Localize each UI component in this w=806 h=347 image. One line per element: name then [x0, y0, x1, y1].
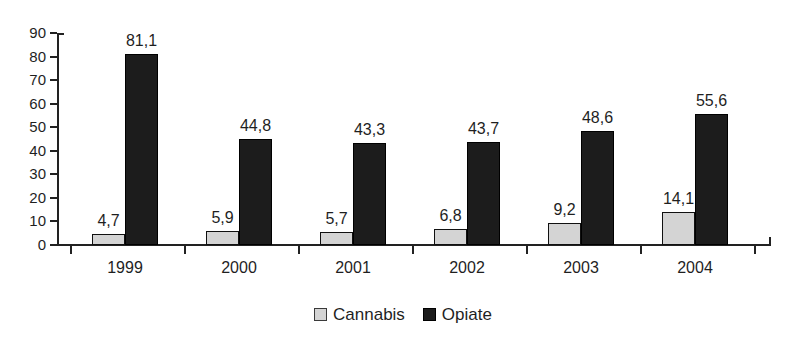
bar-cannabis-1999[interactable] [92, 234, 125, 245]
x-axis-tick [754, 246, 756, 254]
y-axis-tick-label: 80 [2, 49, 46, 64]
bar-value-label-opiate-2002: 43,7 [453, 121, 514, 137]
bar-value-label-cannabis-2000: 5,9 [192, 210, 253, 226]
y-axis-tick-label: 20 [2, 190, 46, 205]
bar-opiate-2004[interactable] [695, 114, 728, 245]
bar-value-label-cannabis-1999: 4,7 [78, 213, 139, 229]
bar-opiate-2002[interactable] [467, 142, 500, 245]
legend-item-cannabis[interactable]: Cannabis [314, 306, 405, 323]
y-axis-tick [50, 150, 57, 152]
plot-area [57, 33, 773, 245]
y-axis-tick-label: 90 [2, 25, 46, 40]
bar-cannabis-2003[interactable] [548, 223, 581, 245]
x-axis-tick [184, 246, 186, 254]
bar-opiate-2000[interactable] [239, 139, 272, 245]
bar-value-label-cannabis-2003: 9,2 [534, 202, 595, 218]
x-axis-label-2004: 2004 [655, 259, 735, 277]
bar-chart: 9080706050403020100 19992000200120022003… [0, 0, 806, 347]
bar-cannabis-2000[interactable] [206, 231, 239, 245]
y-axis-tick-label: 70 [2, 72, 46, 87]
bar-value-label-opiate-2000: 44,8 [225, 118, 286, 134]
x-axis-tick [70, 246, 72, 254]
opiate-swatch-icon [423, 308, 436, 321]
cannabis-swatch-icon [314, 308, 327, 321]
bar-value-label-cannabis-2002: 6,8 [420, 208, 481, 224]
legend-item-opiate[interactable]: Opiate [423, 306, 492, 323]
y-axis-tick [50, 56, 57, 58]
y-axis-tick [50, 244, 57, 246]
y-axis-tick [50, 197, 57, 199]
bar-cannabis-2002[interactable] [434, 229, 467, 245]
bar-value-label-opiate-2004: 55,6 [681, 93, 742, 109]
y-axis-tick [50, 103, 57, 105]
chart-legend: Cannabis Opiate [0, 306, 806, 323]
y-axis-tick-label: 0 [2, 237, 46, 252]
bar-opiate-2003[interactable] [581, 131, 614, 245]
y-axis-tick-label: 50 [2, 119, 46, 134]
bar-value-label-cannabis-2004: 14,1 [648, 191, 709, 207]
x-axis-label-2002: 2002 [427, 259, 507, 277]
y-axis-tick [50, 79, 57, 81]
x-axis-tick [526, 246, 528, 254]
bar-value-label-opiate-2003: 48,6 [567, 110, 628, 126]
bar-cannabis-2001[interactable] [320, 232, 353, 245]
y-axis-tick-label: 30 [2, 166, 46, 181]
legend-label-cannabis: Cannabis [333, 306, 405, 323]
y-axis-tick [50, 220, 57, 222]
y-axis-tick-label: 60 [2, 96, 46, 111]
x-axis-label-2000: 2000 [199, 259, 279, 277]
bar-value-label-opiate-2001: 43,3 [339, 122, 400, 138]
legend-label-opiate: Opiate [442, 306, 492, 323]
x-axis-tick [640, 246, 642, 254]
bar-value-label-opiate-1999: 81,1 [111, 33, 172, 49]
y-axis-tick-label: 40 [2, 143, 46, 158]
x-axis-label-2003: 2003 [541, 259, 621, 277]
x-axis-tick [298, 246, 300, 254]
bar-opiate-2001[interactable] [353, 143, 386, 245]
x-axis-tick [412, 246, 414, 254]
x-axis-label-2001: 2001 [313, 259, 393, 277]
y-axis-tick [50, 173, 57, 175]
bar-cannabis-2004[interactable] [662, 212, 695, 245]
x-axis-label-1999: 1999 [85, 259, 165, 277]
y-axis-tick-label: 10 [2, 213, 46, 228]
y-axis-tick [50, 126, 57, 128]
y-axis-tick [50, 32, 57, 34]
bar-value-label-cannabis-2001: 5,7 [306, 211, 367, 227]
